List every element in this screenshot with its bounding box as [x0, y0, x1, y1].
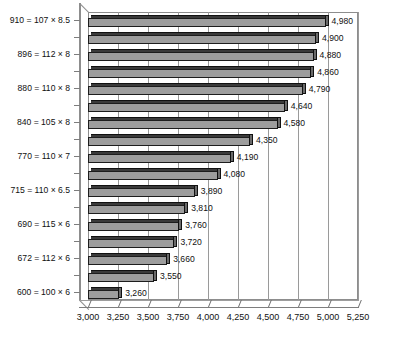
- bar-top-face: [91, 151, 234, 154]
- bar-row: 4,860: [88, 66, 358, 78]
- bar-top-face: [91, 219, 182, 222]
- bar-value-label: 3,890: [201, 186, 223, 196]
- bar-end-cap: [118, 287, 122, 298]
- y-axis-tick: [74, 173, 80, 174]
- bar[interactable]: [88, 188, 195, 197]
- bar-value-label: 3,810: [191, 203, 213, 213]
- bar-row: 3,260: [88, 287, 358, 299]
- y-axis-tick: [74, 139, 80, 140]
- x-axis-tick-label: 4,750: [287, 312, 310, 322]
- y-axis-label: 910 = 107 × 8.5: [10, 15, 70, 25]
- y-axis-tick: [74, 207, 80, 208]
- bar[interactable]: [88, 35, 316, 44]
- bar[interactable]: [88, 86, 303, 95]
- bar[interactable]: [88, 222, 179, 231]
- bar-end-cap: [230, 151, 234, 162]
- y-axis-label: 690 = 115 × 6: [18, 219, 70, 229]
- bar-row: 4,880: [88, 49, 358, 61]
- bar-end-cap: [315, 32, 319, 43]
- bar-end-cap: [277, 117, 281, 128]
- y-axis-tick: [74, 190, 80, 191]
- y-axis-category-labels: 910 = 107 × 8.5896 = 112 × 8880 = 110 × …: [0, 0, 79, 345]
- bar-end-cap: [249, 134, 253, 145]
- y-axis-label: 896 = 112 × 8: [18, 49, 70, 59]
- x-axis-tick: [118, 300, 122, 307]
- y-axis-tick: [74, 258, 80, 259]
- bar-end-cap: [166, 253, 170, 264]
- bar-value-label: 3,260: [125, 288, 147, 298]
- bar[interactable]: [88, 171, 218, 180]
- y-axis-label: 880 = 110 × 8: [18, 83, 70, 93]
- bar-end-cap: [310, 66, 314, 77]
- bar-value-label: 4,350: [256, 135, 278, 145]
- y-axis-tick: [74, 122, 80, 123]
- bar-top-face: [91, 49, 317, 52]
- bar[interactable]: [88, 18, 326, 27]
- bar[interactable]: [88, 239, 174, 248]
- y-axis-tick: [74, 292, 80, 293]
- bar-top-face: [91, 66, 314, 69]
- bar-top-face: [91, 83, 306, 86]
- bar-value-label: 4,980: [332, 16, 354, 26]
- bar-end-cap: [178, 219, 182, 230]
- bar[interactable]: [88, 256, 167, 265]
- y-axis-tick: [74, 105, 80, 106]
- bar-top-face: [91, 134, 253, 137]
- x-axis-tick: [328, 300, 332, 307]
- bar-value-label: 3,550: [160, 271, 182, 281]
- bar-end-cap: [153, 270, 157, 281]
- bar[interactable]: [88, 205, 185, 214]
- bar[interactable]: [88, 154, 231, 163]
- bar-end-cap: [217, 168, 221, 179]
- bar-value-label: 4,900: [322, 33, 344, 43]
- bar-row: 4,350: [88, 134, 358, 146]
- bar-chart: 910 = 107 × 8.5896 = 112 × 8880 = 110 × …: [0, 0, 397, 345]
- bar-row: 4,900: [88, 32, 358, 44]
- bar-row: 4,190: [88, 151, 358, 163]
- y-axis-tick: [74, 71, 80, 72]
- bar-value-label: 3,660: [173, 254, 195, 264]
- x-axis-line: [79, 307, 359, 308]
- bar[interactable]: [88, 103, 285, 112]
- bar-top-face: [91, 32, 319, 35]
- x-axis-tick-label: 3,500: [137, 312, 160, 322]
- x-axis-tick: [298, 300, 302, 307]
- bar-top-face: [91, 185, 198, 188]
- bar-row: 3,660: [88, 253, 358, 265]
- bar-top-face: [91, 270, 157, 273]
- x-axis-tick: [358, 300, 362, 307]
- bar-end-cap: [325, 15, 329, 26]
- bar[interactable]: [88, 290, 119, 299]
- plot-area: 4,9804,9004,8804,8604,7904,6404,5804,350…: [88, 12, 358, 300]
- bar[interactable]: [88, 120, 278, 129]
- y-axis-tick: [74, 275, 80, 276]
- y-axis-label: 770 = 110 × 7: [18, 151, 70, 161]
- bar-row: 4,080: [88, 168, 358, 180]
- bar-end-cap: [194, 185, 198, 196]
- bar-row: 3,550: [88, 270, 358, 282]
- y-axis-tick: [74, 54, 80, 55]
- bar-row: 4,980: [88, 15, 358, 27]
- x-axis-tick: [88, 300, 92, 307]
- depth-edge-top: [79, 3, 89, 13]
- bar-end-cap: [173, 236, 177, 247]
- x-axis-tick: [268, 300, 272, 307]
- y-axis-tick: [74, 88, 80, 89]
- bar-end-cap: [313, 49, 317, 60]
- bar-row: 3,810: [88, 202, 358, 214]
- x-axis-tick-label: 4,250: [227, 312, 250, 322]
- bar-end-cap: [302, 83, 306, 94]
- bar-value-label: 4,880: [320, 50, 342, 60]
- x-axis-tick-label: 5,250: [347, 312, 370, 322]
- bar[interactable]: [88, 273, 154, 282]
- bar-top-face: [91, 15, 329, 18]
- bar-row: 3,890: [88, 185, 358, 197]
- y-axis-label: 715 = 110 × 6.5: [10, 185, 70, 195]
- bar[interactable]: [88, 52, 314, 61]
- bar-value-label: 4,190: [237, 152, 259, 162]
- x-axis-tick: [148, 300, 152, 307]
- bar-row: 4,640: [88, 100, 358, 112]
- bar[interactable]: [88, 137, 250, 146]
- bar[interactable]: [88, 69, 311, 78]
- bar-value-label: 4,860: [317, 67, 339, 77]
